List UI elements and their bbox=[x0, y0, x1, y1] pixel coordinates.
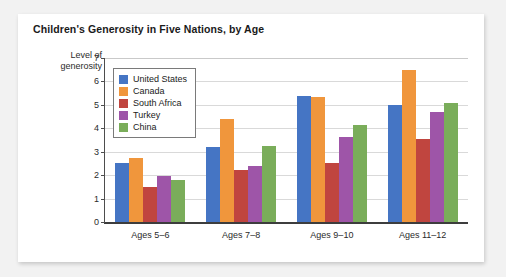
y-axis-tick-label: 5 bbox=[79, 100, 99, 110]
y-axis-tick-label: 6 bbox=[79, 76, 99, 86]
y-axis-tick-label: 4 bbox=[79, 123, 99, 133]
legend-item-label: South Africa bbox=[133, 98, 182, 108]
legend-swatch-icon bbox=[119, 75, 128, 84]
bar bbox=[115, 163, 129, 222]
y-axis-tick-label: 0 bbox=[79, 217, 99, 227]
legend-item: United States bbox=[119, 73, 187, 85]
bar bbox=[430, 112, 444, 222]
legend-swatch-icon bbox=[119, 123, 128, 132]
legend-item-label: China bbox=[133, 122, 157, 132]
bar bbox=[388, 105, 402, 222]
legend-swatch-icon bbox=[119, 87, 128, 96]
x-axis-line bbox=[104, 222, 468, 224]
bar-group bbox=[206, 58, 276, 222]
bar bbox=[129, 158, 143, 222]
x-axis-tick-label: Ages 9–10 bbox=[310, 230, 353, 240]
x-axis-tick-label: Ages 11–12 bbox=[399, 230, 446, 240]
bar bbox=[157, 176, 171, 222]
bar bbox=[297, 96, 311, 223]
y-axis-tick-label: 2 bbox=[79, 170, 99, 180]
y-axis-tick-label: 1 bbox=[79, 194, 99, 204]
legend-item: Canada bbox=[119, 85, 187, 97]
legend-item: South Africa bbox=[119, 97, 187, 109]
bar bbox=[339, 137, 353, 223]
chart-title: Children's Generosity in Five Nations, b… bbox=[33, 23, 264, 35]
bar bbox=[416, 139, 430, 222]
y-axis-tick-label: 7 bbox=[79, 53, 99, 63]
bar-group bbox=[388, 58, 458, 222]
bar bbox=[353, 125, 367, 222]
bar bbox=[311, 97, 325, 222]
bar-group bbox=[297, 58, 367, 222]
y-axis-tick-mark bbox=[101, 222, 105, 223]
y-axis-tick-label: 3 bbox=[79, 147, 99, 157]
x-axis-tick-label: Ages 5–6 bbox=[131, 230, 169, 240]
y-axis-ticks: 01234567 bbox=[79, 58, 99, 222]
legend-item-label: United States bbox=[133, 74, 187, 84]
legend-swatch-icon bbox=[119, 111, 128, 120]
legend-swatch-icon bbox=[119, 99, 128, 108]
x-axis-tick-label: Ages 7–8 bbox=[222, 230, 260, 240]
legend-item-label: Canada bbox=[133, 86, 165, 96]
bar bbox=[206, 147, 220, 222]
bar bbox=[248, 166, 262, 222]
bar bbox=[220, 119, 234, 222]
bar bbox=[171, 180, 185, 222]
bar bbox=[402, 70, 416, 222]
bar bbox=[444, 103, 458, 222]
bar bbox=[262, 146, 276, 222]
legend: United StatesCanadaSouth AfricaTurkeyChi… bbox=[113, 68, 196, 138]
bar bbox=[143, 187, 157, 222]
bar bbox=[325, 163, 339, 222]
bar bbox=[234, 170, 248, 222]
legend-item-label: Turkey bbox=[133, 110, 160, 120]
legend-item: China bbox=[119, 121, 187, 133]
legend-item: Turkey bbox=[119, 109, 187, 121]
